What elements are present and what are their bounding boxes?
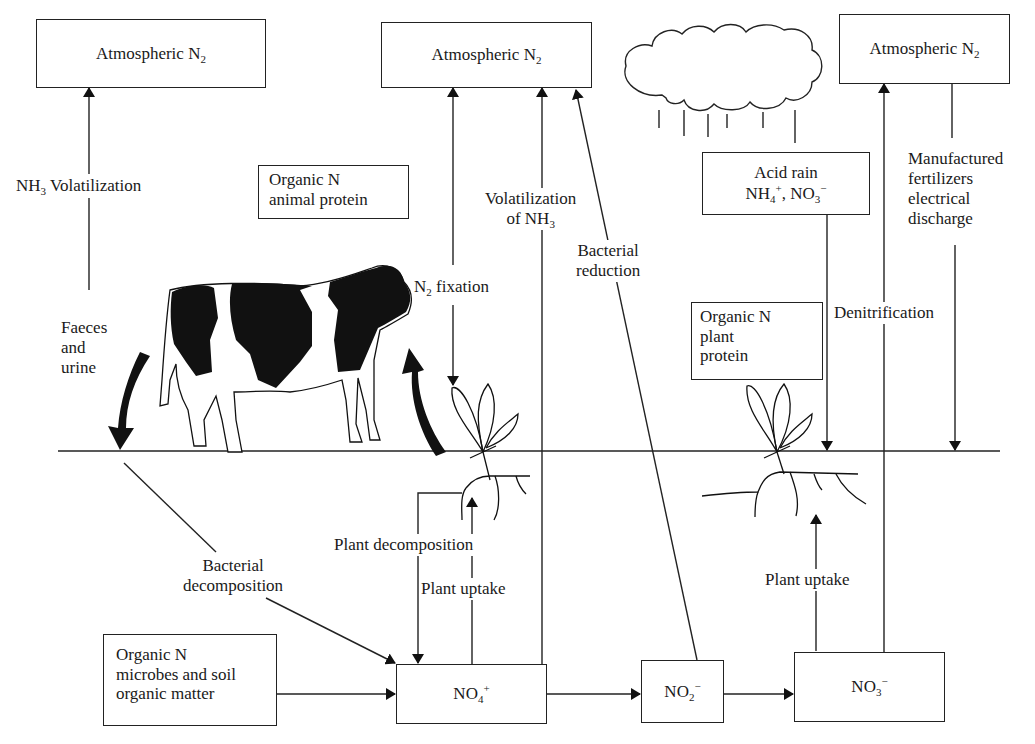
organic-soil-line3: organic matter: [116, 684, 264, 704]
organic-animal-line2: animal protein: [269, 190, 398, 210]
organic-n-plant-box: Organic N plant protein: [691, 302, 823, 380]
organic-plant-line3: protein: [700, 346, 814, 366]
n2-fixation-label: N2 fixation: [412, 276, 491, 298]
acid-rain-ions: NH4+, NO3−: [745, 184, 826, 204]
bacterial-decomposition-arrow: [266, 598, 395, 663]
no4-box: NO4+: [396, 664, 547, 724]
organic-soil-line2: microbes and soil: [116, 665, 264, 685]
rain-icon: [659, 110, 795, 143]
no3-label: NO3−: [851, 677, 887, 697]
bacterial-reduction-arrow: [576, 90, 697, 660]
faeces-urine-label: Faeces and urine: [61, 318, 107, 378]
atmospheric-n2-left-label: Atmospheric N2: [96, 44, 206, 64]
curved-arrow-up-icon: [402, 348, 446, 456]
atmospheric-n2-right-label: Atmospheric N2: [870, 39, 980, 59]
organic-plant-line1: Organic N: [700, 307, 814, 327]
volatilization-nh3-label: Volatilization of NH3: [483, 188, 578, 230]
cloud-icon: [625, 25, 822, 111]
denitrification-label: Denitrification: [832, 302, 936, 324]
no4-label: NO4+: [453, 684, 489, 704]
bacterial-reduction-label: Bacterial reduction: [574, 240, 642, 282]
curved-arrow-down-icon: [108, 352, 150, 450]
acid-rain-box: Acid rain NH4+, NO3−: [702, 152, 870, 215]
plant-uptake-right-label: Plant uptake: [763, 569, 852, 591]
nh3-volatilization-label: NH3 Volatilization: [14, 174, 143, 198]
diagram-canvas: [0, 0, 1035, 744]
organic-animal-line1: Organic N: [269, 170, 398, 190]
plant-left-icon: [452, 384, 530, 520]
organic-soil-line1: Organic N: [116, 645, 264, 665]
atmospheric-n2-middle-box: Atmospheric N2: [381, 22, 592, 88]
manufactured-fertilizers-label: Manufactured fertilizers electrical disc…: [906, 148, 1005, 230]
organic-n-animal-box: Organic N animal protein: [258, 165, 409, 219]
bacterial-decomposition-line: [124, 463, 216, 552]
organic-plant-line2: plant: [700, 327, 814, 347]
acid-rain-title: Acid rain: [754, 163, 818, 183]
atmospheric-n2-middle-label: Atmospheric N2: [432, 45, 542, 65]
organic-n-soil-box: Organic N microbes and soil organic matt…: [103, 634, 277, 726]
no2-label: NO2−: [664, 682, 700, 702]
plant-uptake-left-label: Plant uptake: [419, 578, 508, 600]
atmospheric-n2-right-box: Atmospheric N2: [839, 14, 1010, 84]
no2-box: NO2−: [641, 660, 724, 723]
atmospheric-n2-left-box: Atmospheric N2: [36, 19, 266, 88]
bacterial-decomposition-label: Bacterial decomposition: [181, 555, 285, 597]
cow-illustration: [160, 266, 411, 452]
plant-decomposition-label: Plant decomposition: [332, 534, 475, 556]
no3-box: NO3−: [794, 652, 945, 722]
